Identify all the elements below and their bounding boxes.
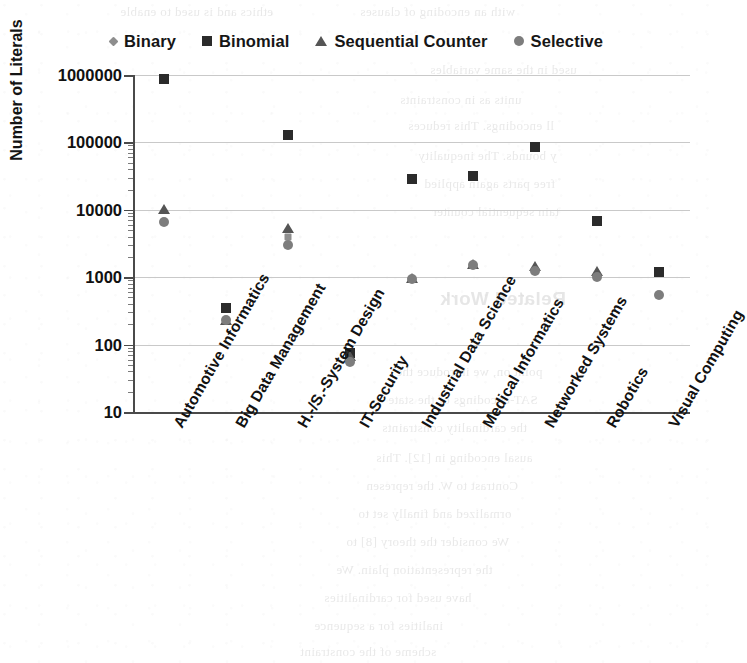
data-point-square [468,171,478,181]
y-axis-major-tick [124,277,133,279]
y-gridline [133,142,690,143]
data-point-square [654,267,664,277]
y-axis-tick-label: 1000 [85,268,122,287]
y-axis-major-tick [124,210,133,212]
x-axis-line [133,412,690,414]
x-axis-category-label: Visual Computing [665,307,747,431]
data-point-triangle [158,204,170,214]
y-gridline [133,75,690,76]
data-point-square [221,303,231,313]
data-point-square [530,142,540,152]
y-gridline [133,210,690,211]
data-point-circle [407,274,417,284]
y-axis-major-tick [124,75,133,77]
y-axis-major-tick [124,345,133,347]
data-point-circle [159,217,169,227]
x-axis-category-label: Robotics [603,364,652,431]
y-axis-tick-label: 1000000 [58,66,122,85]
y-axis-tick-label: 10000 [76,200,122,219]
data-point-triangle [282,223,294,233]
y-axis-tick-label: 10 [104,403,122,422]
x-axis-category-label: IT-Security [356,352,412,431]
data-point-square [407,174,417,184]
data-point-circle [654,290,664,300]
y-axis-major-tick [124,412,133,414]
data-point-circle [530,266,540,276]
data-point-square [159,74,169,84]
y-axis-tick-label: 100 [94,335,122,354]
data-point-circle [283,240,293,250]
y-axis-line [133,75,135,412]
data-point-circle [468,260,478,270]
data-point-square [592,216,602,226]
data-point-square [283,130,293,140]
data-point-circle [592,272,602,282]
y-axis-tick-label: 100000 [67,133,122,152]
y-axis-major-tick [124,142,133,144]
